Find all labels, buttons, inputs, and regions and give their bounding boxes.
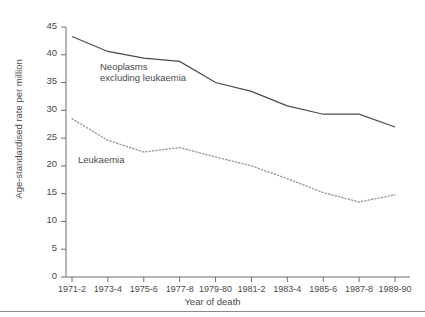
series-annotation-neoplasms: Neoplasms excluding leukaemia: [100, 62, 186, 84]
y-tick-label: 15: [31, 187, 57, 198]
y-tick-label: 30: [31, 104, 57, 115]
y-tick-label: 35: [31, 76, 57, 87]
series-annotation-leukaemia: Leukaemia: [78, 155, 124, 166]
y-tick-label: 45: [31, 21, 57, 32]
bottom-divider-rule: [0, 311, 425, 312]
y-axis-title: Age-standardised rate per million: [14, 14, 25, 244]
x-axis-title: Year of death: [0, 297, 425, 308]
y-tick-label: 40: [31, 48, 57, 59]
y-tick-label: 25: [31, 132, 57, 143]
y-tick-label: 0: [31, 271, 57, 282]
line-chart-plot: [0, 0, 425, 317]
series-annotation-neoplasms-line2: excluding leukaemia: [100, 73, 186, 84]
chart-figure: 454035302520151050 1971-21973-41975-6197…: [0, 0, 425, 317]
x-axis-ticks: [72, 277, 395, 282]
y-tick-label: 5: [31, 243, 57, 254]
y-tick-label: 20: [31, 159, 57, 170]
x-tick-label: 1989-90: [370, 284, 420, 294]
y-axis-ticks: [61, 27, 66, 277]
y-tick-label: 10: [31, 215, 57, 226]
